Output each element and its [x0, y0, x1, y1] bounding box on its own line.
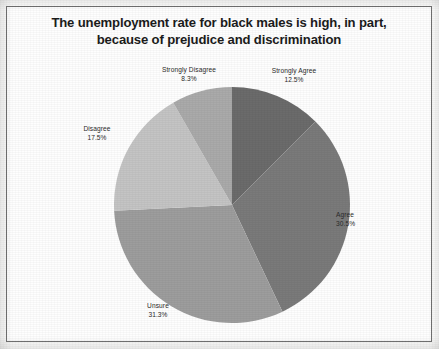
slice-label-strongly-agree-name: Strongly Agree [259, 66, 329, 75]
slice-label-disagree-percent: 17.5% [66, 133, 128, 142]
slice-label-strongly-disagree: Strongly Disagree 8.3% [145, 65, 233, 83]
slice-label-agree-name: Agree [336, 210, 396, 219]
slice-label-strongly-disagree-name: Strongly Disagree [145, 65, 233, 74]
pie-chart-svg [0, 0, 439, 349]
slice-label-unsure-name: Unsure [128, 301, 188, 310]
slice-label-unsure: Unsure 31.3% [128, 301, 188, 319]
slice-label-disagree-name: Disagree [66, 124, 128, 133]
slice-label-strongly-disagree-percent: 8.3% [145, 74, 233, 83]
slice-label-agree: Agree 30.5% [336, 210, 396, 228]
slice-label-strongly-agree: Strongly Agree 12.5% [259, 66, 329, 84]
pie-chart-figure: The unemployment rate for black males is… [0, 0, 439, 349]
slice-label-agree-percent: 30.5% [336, 219, 396, 228]
pie-slices [114, 87, 350, 323]
pie-chart-area: Strongly Agree 12.5% Strongly Disagree 8… [0, 0, 439, 349]
slice-label-strongly-agree-percent: 12.5% [259, 75, 329, 84]
slice-label-unsure-percent: 31.3% [128, 310, 188, 319]
slice-label-disagree: Disagree 17.5% [66, 124, 128, 142]
